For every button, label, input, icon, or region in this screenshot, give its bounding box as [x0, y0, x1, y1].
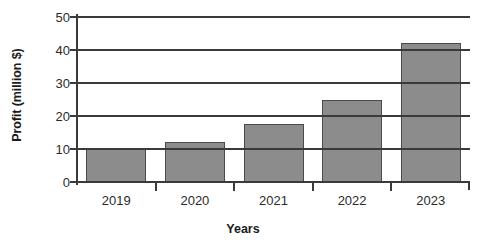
y-axis-tick — [70, 49, 78, 51]
x-axis-tick-label: 2022 — [338, 193, 367, 208]
x-axis-tick — [155, 182, 157, 191]
y-axis-tick-label: 10 — [40, 143, 70, 156]
x-axis-tick-label: 2021 — [259, 193, 288, 208]
gridline — [77, 148, 470, 150]
y-axis-tick-labels: 01020304050 — [36, 0, 70, 251]
x-axis-tick — [233, 182, 235, 191]
bar — [401, 43, 461, 182]
bar — [244, 124, 304, 182]
x-axis-end-tick — [468, 181, 470, 190]
y-axis-tick-label: 0 — [40, 176, 70, 189]
y-axis-tick-label: 40 — [40, 44, 70, 57]
gridline — [77, 115, 470, 117]
y-axis-tick-label: 20 — [40, 110, 70, 123]
bar — [86, 149, 146, 182]
x-axis-tick — [390, 182, 392, 191]
y-axis-tick — [70, 115, 78, 117]
bar — [322, 100, 382, 182]
bar-chart: Profit (million $) 01020304050 201920202… — [0, 0, 486, 251]
x-axis-tick-label: 2020 — [180, 193, 209, 208]
y-axis-tick — [70, 16, 78, 18]
gridline — [77, 49, 470, 51]
x-axis-tick — [312, 182, 314, 191]
x-axis-tick-label: 2023 — [416, 193, 445, 208]
x-axis-tick-label: 2019 — [102, 193, 131, 208]
gridline — [77, 16, 470, 18]
y-axis-tick — [70, 148, 78, 150]
y-axis-tick — [70, 82, 78, 84]
y-axis-title: Profit (million $) — [0, 0, 34, 190]
y-axis-tick-label: 30 — [40, 77, 70, 90]
gridline — [77, 82, 470, 84]
x-axis-title: Years — [0, 222, 486, 236]
x-axis-line — [70, 181, 470, 183]
plot-area — [77, 17, 470, 182]
y-axis-title-text: Profit (million $) — [10, 48, 24, 141]
y-axis-tick-label: 50 — [40, 11, 70, 24]
